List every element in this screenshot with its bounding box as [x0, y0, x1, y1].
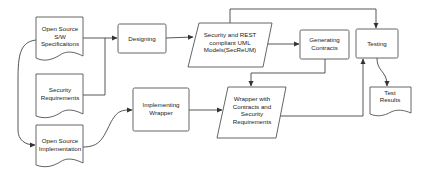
edge-secreq-to-designing	[83, 38, 105, 95]
node-secreq-line2: Requirements	[41, 94, 80, 101]
node-uml-line1: Security and REST	[204, 31, 257, 38]
node-testing: Testing	[356, 29, 398, 58]
node-gencontracts-line1: Generating	[309, 36, 340, 43]
edge-impl-to-implwrapper	[83, 110, 132, 147]
node-designing-label: Designing	[128, 35, 156, 42]
node-implementing-wrapper: Implementing Wrapper	[133, 88, 189, 131]
node-wrapper-line2: Contracts and	[233, 103, 272, 110]
node-open-source-implementation: Open Source Implementation	[36, 125, 83, 167]
node-test-results: Test Results	[370, 87, 411, 116]
node-implwrapper-line2: Wrapper	[149, 109, 173, 116]
node-wrapper-line1: Wrapper with	[234, 95, 271, 102]
node-gencontracts-line2: Contracts	[311, 44, 337, 51]
node-spec-line3: Specificaitons	[41, 40, 79, 47]
node-wrapper-contracts: Wrapper with Contracts and Security Requ…	[217, 87, 286, 138]
node-uml-line3: Models(SecReUM)	[204, 46, 256, 53]
node-wrapper-line4: Requirements	[233, 118, 272, 125]
node-designing: Designing	[118, 24, 166, 53]
node-secreq-line1: Security	[49, 86, 72, 93]
node-uml-line2: compliant UML	[209, 39, 251, 46]
edge-wrapper-to-testing	[279, 59, 363, 116]
node-impl-line2: Implementation	[39, 145, 82, 152]
node-results-line1: Test	[384, 89, 396, 96]
flow-diagram: Open Source S/W Specificaitons Security …	[0, 0, 429, 178]
node-spec-line1: Open Source	[42, 25, 79, 32]
node-wrapper-line3: Security	[241, 110, 264, 117]
node-spec: Open Source S/W Specificaitons	[36, 17, 83, 60]
node-results-line2: Results	[380, 96, 401, 103]
node-uml-models: Security and REST compliant UML Models(S…	[188, 23, 272, 67]
edge-designing-to-uml	[166, 37, 193, 38]
node-impl-line1: Open Source	[42, 137, 79, 144]
node-testing-label: Testing	[367, 40, 387, 47]
node-generating-contracts: Generating Contracts	[300, 30, 349, 59]
edge-spec-to-impl	[18, 40, 36, 145]
node-implwrapper-line1: Implementing	[142, 101, 180, 108]
node-spec-line2: S/W	[54, 33, 66, 40]
node-security-requirements: Security Requirements	[36, 74, 83, 118]
edge-testing-to-results	[377, 58, 387, 86]
